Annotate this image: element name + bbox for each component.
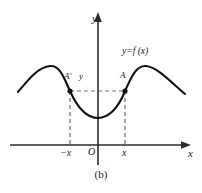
x-tick-label-negative: −x: [60, 148, 71, 158]
label-point-a-prime-y-value: y: [79, 72, 83, 81]
x-tick-label-positive: x: [122, 148, 126, 158]
function-graph-svg: [0, 0, 202, 193]
y-axis-label: y: [92, 13, 97, 24]
curve-equation-label: y=f (x): [122, 47, 148, 57]
figure-container: y x O −x x A′ y A y=f (x) (b): [0, 0, 202, 193]
origin-label: O: [88, 147, 95, 157]
label-point-a: A: [120, 71, 126, 80]
function-curve: [18, 66, 185, 118]
figure-caption: (b): [0, 168, 202, 180]
point-marker-a-prime: [67, 88, 72, 93]
point-marker-a: [122, 88, 127, 93]
y-axis: [94, 12, 102, 165]
x-axis-label: x: [188, 148, 193, 159]
x-axis: [10, 141, 191, 149]
label-point-a-prime: A′: [64, 72, 71, 81]
